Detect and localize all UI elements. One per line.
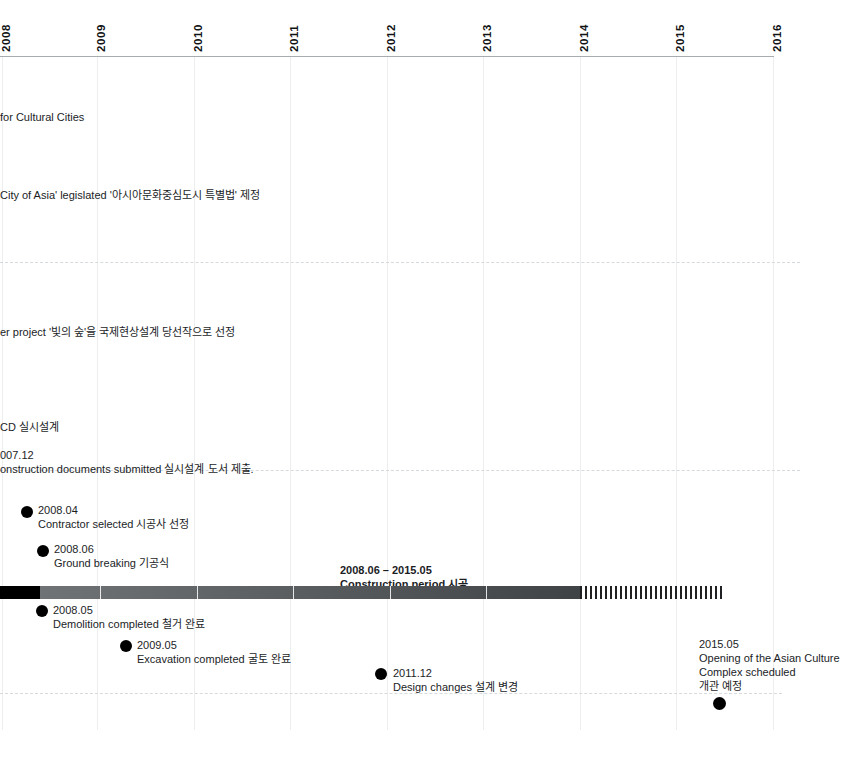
event-label: Ground breaking 기공식 [54,556,169,570]
year-tick-2010: 2010 [192,0,206,52]
milestone-dot-opening-scheduled [713,697,726,710]
construction-bar-completed [40,586,580,599]
event-date: 007.12 [0,448,254,462]
event-cd-design: CD 실시설계 [0,420,59,434]
event-cultural-cities: for Cultural Cities [0,110,84,124]
year-tick-2009: 2009 [95,0,109,52]
gridline-2015 [676,57,677,730]
bar-seam [100,586,101,599]
event-opening-scheduled: 2015.05 Opening of the Asian Culture Com… [699,637,840,693]
event-contractor-selected: 2008.04 Contractor selected 시공사 선정 [38,503,190,531]
event-label: City of Asia' legislated '아시아문화중심도시 특별법'… [0,188,260,202]
bar-seam [197,586,198,599]
milestone-dot-ground-breaking [37,545,49,557]
gridline-2011 [290,57,291,730]
gridline-2014 [580,57,581,730]
event-label: Demolition completed 철거 완료 [53,617,205,631]
year-tick-2014: 2014 [578,0,592,52]
event-label: Excavation completed 굴토 완료 [137,652,291,666]
event-date: 2008.04 [38,503,190,517]
event-label: CD 실시설계 [0,420,59,434]
event-hub-city-of-asia: City of Asia' legislated '아시아문화중심도시 특별법'… [0,188,260,202]
year-tick-2016: 2016 [771,0,785,52]
year-tick-2012: 2012 [385,0,399,52]
event-label: Contractor selected 시공사 선정 [38,517,190,531]
event-date: 2009.05 [137,638,291,652]
event-label: Design changes 설계 변경 [393,680,518,694]
construction-bar-planned [580,586,723,599]
gridline-2012 [387,57,388,730]
axis-baseline [0,56,774,57]
section-separator-3 [0,693,782,694]
event-design-changes: 2011.12 Design changes 설계 변경 [393,666,518,694]
event-label: for Cultural Cities [0,110,84,124]
year-tick-2008: 2008 [0,0,14,52]
event-construction-documents: 007.12 onstruction documents submitted 실… [0,448,254,476]
bar-seam [293,586,294,599]
event-demolition-completed: 2008.05 Demolition completed 철거 완료 [53,603,205,631]
timeline-chart: 2008 2009 2010 2011 2012 2013 2014 2015 … [0,0,865,769]
event-date: 2011.12 [393,666,518,680]
event-date: 2015.05 [699,637,840,651]
year-tick-2011: 2011 [288,0,302,52]
event-forest-of-light: er project '빛의 숲'을 국제현상설계 당선작으로 선정 [0,325,235,339]
event-label-line-2: Complex scheduled [699,665,840,679]
year-tick-2013: 2013 [481,0,495,52]
event-label-korean: 개관 예정 [699,679,840,693]
year-tick-2015: 2015 [674,0,688,52]
event-excavation-completed: 2009.05 Excavation completed 굴토 완료 [137,638,291,666]
gridline-2008 [2,57,3,730]
milestone-dot-demolition-completed [36,605,48,617]
milestone-dot-contractor-selected [21,506,33,518]
event-label: er project '빛의 숲'을 국제현상설계 당선작으로 선정 [0,325,235,339]
construction-bar-start-segment [0,586,40,599]
event-ground-breaking: 2008.06 Ground breaking 기공식 [54,542,169,570]
gridline-2016 [773,57,774,730]
gridline-2013 [483,57,484,730]
bar-seam [486,586,487,599]
event-date: 2008.05 [53,603,205,617]
event-date: 2008.06 [54,542,169,556]
milestone-dot-design-changes [375,668,387,680]
section-separator-1 [0,262,800,263]
event-label-line-1: Opening of the Asian Culture [699,651,840,665]
bar-seam [390,586,391,599]
construction-period-range: 2008.06 – 2015.05 [340,563,468,577]
milestone-dot-excavation-completed [120,640,132,652]
event-label: onstruction documents submitted 실시설계 도서 … [0,462,254,476]
